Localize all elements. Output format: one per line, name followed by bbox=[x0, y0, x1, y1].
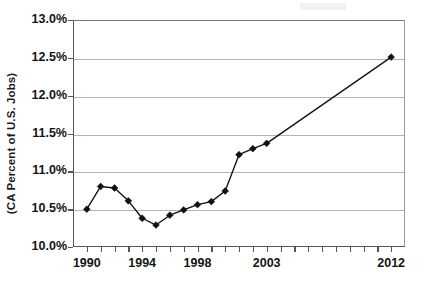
x-axis-tick-mark bbox=[142, 247, 143, 252]
x-axis-tick-mark bbox=[239, 247, 240, 252]
x-axis-tick-mark bbox=[267, 247, 268, 252]
x-axis-tick-label: 1990 bbox=[73, 256, 101, 270]
y-axis-tick-label: 10.5% bbox=[5, 201, 67, 215]
y-axis-tick-label: 11.5% bbox=[5, 126, 67, 140]
x-axis-tick-mark bbox=[211, 247, 212, 252]
x-axis-tick-mark bbox=[294, 247, 295, 252]
y-axis-tick-label: 11.0% bbox=[5, 163, 67, 177]
x-axis-tick-label: 2012 bbox=[377, 256, 405, 270]
y-axis-tick-label: 13.0% bbox=[5, 12, 67, 26]
plot-area bbox=[73, 20, 405, 247]
y-axis-tick-label: 10.0% bbox=[5, 239, 67, 253]
x-axis-tick-mark bbox=[308, 247, 309, 252]
x-axis-tick-label: 2003 bbox=[253, 256, 281, 270]
gridline bbox=[74, 97, 404, 98]
x-axis-tick-mark bbox=[336, 247, 337, 252]
x-axis-tick-label: 1994 bbox=[128, 256, 156, 270]
gridline bbox=[74, 135, 404, 136]
y-axis-tick-label: 12.0% bbox=[5, 88, 67, 102]
x-axis-tick-mark bbox=[184, 247, 185, 252]
x-axis-tick-mark bbox=[101, 247, 102, 252]
x-axis-tick-mark bbox=[170, 247, 171, 252]
y-axis-tick-label: 12.5% bbox=[5, 50, 67, 64]
y-axis-tick-mark bbox=[68, 247, 73, 248]
x-axis-tick-mark bbox=[391, 247, 392, 252]
gridline bbox=[74, 210, 404, 211]
x-axis-tick-mark bbox=[377, 247, 378, 252]
scan-artifact bbox=[300, 3, 346, 10]
gridline bbox=[74, 59, 404, 60]
x-axis-tick-mark bbox=[115, 247, 116, 252]
x-axis-tick-label: 1998 bbox=[184, 256, 212, 270]
x-axis-tick-mark bbox=[198, 247, 199, 252]
x-axis-tick-mark bbox=[350, 247, 351, 252]
x-axis-tick-mark bbox=[156, 247, 157, 252]
x-axis-tick-mark bbox=[128, 247, 129, 252]
line-chart: (CA Percent of U.S. Jobs) 10.0%10.5%11.0… bbox=[0, 0, 423, 287]
x-axis-tick-mark bbox=[281, 247, 282, 252]
x-axis-tick-mark bbox=[225, 247, 226, 252]
x-axis-tick-mark bbox=[322, 247, 323, 252]
x-axis-tick-mark bbox=[253, 247, 254, 252]
gridline bbox=[74, 172, 404, 173]
x-axis-tick-mark bbox=[364, 247, 365, 252]
x-axis-tick-mark bbox=[87, 247, 88, 252]
